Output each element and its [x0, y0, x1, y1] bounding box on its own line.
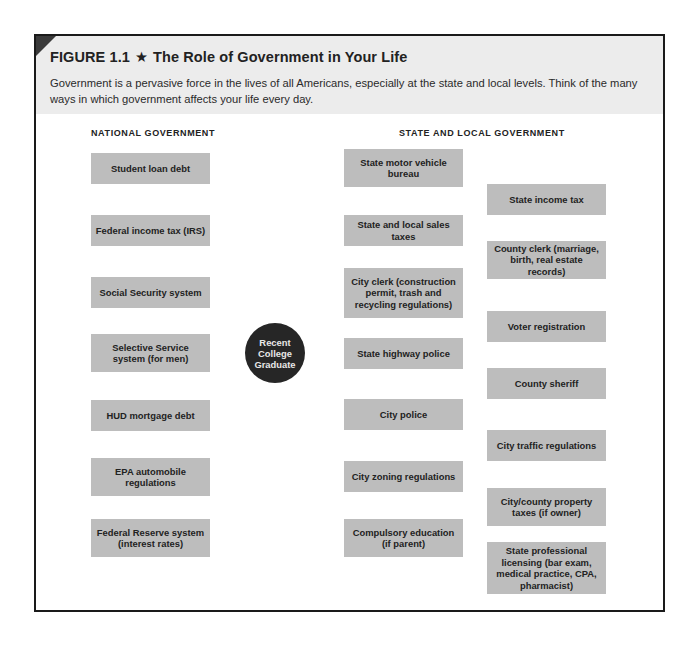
national-heading: NATIONAL GOVERNMENT: [91, 128, 215, 138]
national-item-federal-income-tax: Federal income tax (IRS): [91, 215, 210, 246]
state-item-property-taxes: City/county property taxes (if owner): [487, 488, 606, 526]
state-item-sales-taxes: State and local sales taxes: [344, 215, 463, 246]
national-item-social-security: Social Security system: [91, 277, 210, 308]
state-local-heading: STATE AND LOCAL GOVERNMENT: [399, 128, 565, 138]
state-item-city-clerk: City clerk (construction permit, trash a…: [344, 268, 463, 318]
state-item-zoning: City zoning regulations: [344, 461, 463, 492]
national-item-epa: EPA automobile regulations: [91, 458, 210, 496]
state-item-county-clerk: County clerk (marriage, birth, real esta…: [487, 241, 606, 279]
national-item-student-loan: Student loan debt: [91, 153, 210, 184]
state-item-highway-police: State highway police: [344, 338, 463, 369]
state-item-compulsory-education: Compulsory education (if parent): [344, 519, 463, 557]
national-item-federal-reserve: Federal Reserve system (interest rates): [91, 519, 210, 557]
state-item-voter-registration: Voter registration: [487, 311, 606, 342]
national-item-hud: HUD mortgage debt: [91, 400, 210, 431]
national-item-selective-service: Selective Service system (for men): [91, 334, 210, 372]
state-item-state-income-tax: State income tax: [487, 184, 606, 215]
state-item-city-police: City police: [344, 399, 463, 430]
figure-title: FIGURE 1.1★The Role of Government in You…: [50, 49, 407, 65]
state-item-county-sheriff: County sheriff: [487, 368, 606, 399]
state-item-motor-vehicle: State motor vehicle bureau: [344, 149, 463, 187]
figure-header: FIGURE 1.1★The Role of Government in You…: [36, 36, 663, 114]
figure-title-text: The Role of Government in Your Life: [153, 49, 407, 65]
star-icon: ★: [135, 49, 148, 65]
figure-description: Government is a pervasive force in the l…: [50, 76, 650, 107]
figure-label: FIGURE 1.1: [50, 49, 130, 65]
hub-recent-college-graduate: Recent College Graduate: [245, 323, 305, 383]
state-item-professional-licensing: State professional licensing (bar exam, …: [487, 542, 606, 594]
state-item-traffic: City traffic regulations: [487, 430, 606, 461]
